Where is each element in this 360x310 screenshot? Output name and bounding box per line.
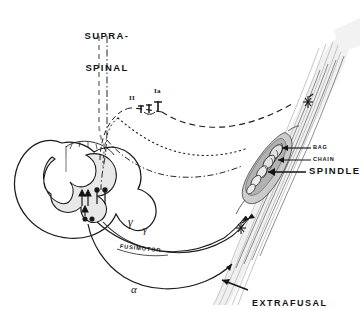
spindle-label: SPINDLE (309, 166, 360, 177)
gamma-static-label: γ (143, 224, 147, 235)
afferent-terminal-marks (138, 101, 162, 114)
spinal-cord-cross-section (15, 140, 157, 238)
alpha-label: α (131, 283, 137, 295)
spindle-reflex-diagram: SUPRA- SPINAL II Ia BAG CHAIN SPINDLE γ … (0, 0, 360, 310)
extrafusal-line-1: EXTRAFUSAL (252, 297, 328, 309)
afferent-ii-label: II (129, 95, 135, 103)
supraspinal-line-2: SPINAL (75, 63, 139, 74)
diagram-canvas (0, 0, 360, 310)
supraspinal-line-1: SUPRA- (75, 31, 139, 42)
chain-label: CHAIN (313, 156, 334, 162)
gamma-dynamic-label: γ (128, 216, 133, 229)
alpha-efferent-pathway (88, 224, 232, 289)
extrafusal-label: EXTRAFUSAL FIBERS (252, 273, 328, 310)
supraspinal-title: SUPRA- SPINAL (75, 10, 139, 95)
bag-label: BAG (313, 144, 328, 150)
afferent-ia-label: Ia (154, 88, 161, 96)
